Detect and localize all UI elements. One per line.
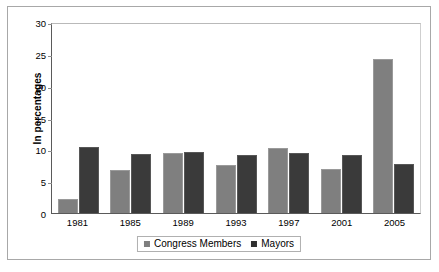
- bar-group: [52, 24, 105, 213]
- x-axis-tick-label: 2005: [368, 217, 421, 228]
- x-axis-tick-label: 1993: [210, 217, 263, 228]
- bar-mayors[interactable]: [79, 147, 99, 213]
- legend-label: Mayors: [261, 238, 294, 249]
- bar-mayors[interactable]: [342, 155, 362, 213]
- bar-congress-members[interactable]: [58, 199, 78, 213]
- bar-group: [157, 24, 210, 213]
- bar-mayors[interactable]: [394, 164, 414, 213]
- y-axis-tick-label: 15: [22, 115, 46, 125]
- bar-group: [262, 24, 315, 213]
- x-axis-ticks: 1981198519891993199720012005: [51, 217, 421, 228]
- bar-congress-members[interactable]: [321, 169, 341, 213]
- bar-mayors[interactable]: [131, 154, 151, 213]
- bar-mayors[interactable]: [237, 155, 257, 213]
- x-axis-tick-label: 1989: [157, 217, 210, 228]
- legend-entry[interactable]: Mayors: [251, 238, 294, 249]
- y-axis-tick-label: 20: [22, 83, 46, 93]
- chart-legend: Congress MembersMayors: [137, 236, 301, 252]
- y-axis-tick-label: 10: [22, 147, 46, 157]
- bar-congress-members[interactable]: [373, 59, 393, 213]
- bars-layer: [52, 24, 420, 213]
- bar-congress-members[interactable]: [110, 170, 130, 213]
- bar-mayors[interactable]: [289, 153, 309, 213]
- x-axis-tick-label: 2001: [315, 217, 368, 228]
- y-axis-tick-label: 0: [22, 210, 46, 220]
- bar-group: [210, 24, 263, 213]
- bar-congress-members[interactable]: [216, 165, 236, 213]
- legend-swatch-icon: [144, 241, 150, 247]
- x-axis-tick-label: 1997: [262, 217, 315, 228]
- legend-swatch-icon: [251, 241, 257, 247]
- bar-congress-members[interactable]: [163, 153, 183, 213]
- bar-congress-members[interactable]: [268, 148, 288, 213]
- y-axis-tick-label: 25: [22, 51, 46, 61]
- bar-group: [105, 24, 158, 213]
- x-axis-tick-label: 1985: [104, 217, 157, 228]
- x-axis-tick-label: 1981: [51, 217, 104, 228]
- bar-mayors[interactable]: [184, 152, 204, 213]
- bar-group: [367, 24, 420, 213]
- y-axis-tick-label: 30: [22, 19, 46, 29]
- legend-entry[interactable]: Congress Members: [144, 238, 241, 249]
- y-axis-tick-label: 5: [22, 178, 46, 188]
- bar-group: [315, 24, 368, 213]
- chart-frame: In percentages 051015202530 198119851989…: [7, 6, 431, 260]
- plot-area: 051015202530: [51, 23, 421, 214]
- legend-label: Congress Members: [154, 238, 241, 249]
